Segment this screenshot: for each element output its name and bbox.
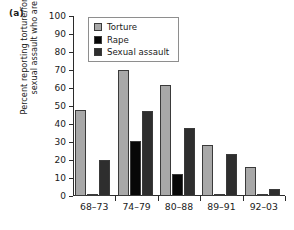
bar-rape-74–79 [130,141,141,196]
legend-swatch-torture [94,23,102,31]
y-axis-title-container: Percent reporting torture/forcible rape/… [12,0,46,125]
y-tick-0 [69,196,74,197]
x-axis-label-74–79: 74–79 [122,201,150,212]
x-tick-separator-4 [243,196,244,201]
legend-swatch-sexual-assault [94,48,102,56]
legend-item-sexual-assault: Sexual assault [94,47,169,57]
y-tick-label-60: 60 [55,83,66,93]
y-tick-label-30: 30 [55,137,66,147]
bar-torture-92–03 [245,167,256,196]
y-tick-label-100: 100 [49,11,66,21]
x-tick-separator-1 [115,196,116,201]
y-tick-label-90: 90 [55,29,66,39]
y-tick-label-40: 40 [55,119,66,129]
x-tick-separator-3 [200,196,201,201]
y-tick-label-50: 50 [55,101,66,111]
legend-swatch-rape [94,36,102,44]
legend-label-sexual-assault: Sexual assault [107,47,169,57]
x-axis-label-68–73: 68–73 [80,201,108,212]
y-tick-label-20: 20 [55,155,66,165]
x-axis-label-89–91: 89–91 [207,201,235,212]
bar-rape-80–88 [172,174,183,196]
bar-rape-89–91 [214,194,225,196]
legend-item-torture: Torture [94,22,169,32]
legend-label-rape: Rape [107,35,129,45]
y-axis-title: Percent reporting torture/forcible rape/… [19,0,39,115]
y-tick-label-10: 10 [55,173,66,183]
bar-torture-68–73 [75,110,86,196]
bar-sexual-assault-92–03 [269,189,280,196]
x-tick-separator-2 [158,196,159,201]
figure-panel-a: (a) Percent reporting torture/forcible r… [0,0,294,230]
bar-rape-68–73 [87,194,98,196]
chart-legend: TortureRapeSexual assault [88,17,179,62]
bar-rape-92–03 [257,194,268,196]
y-tick-label-70: 70 [55,65,66,75]
x-axis-label-80–88: 80–88 [165,201,193,212]
bar-sexual-assault-89–91 [226,154,237,196]
legend-label-torture: Torture [107,22,137,32]
bar-torture-89–91 [202,145,213,196]
legend-item-rape: Rape [94,35,169,45]
bar-torture-80–88 [160,85,171,196]
y-tick-label-0: 0 [60,191,66,201]
bar-sexual-assault-74–79 [142,111,153,196]
bar-torture-74–79 [118,70,129,196]
bar-sexual-assault-68–73 [99,160,110,196]
y-tick-label-80: 80 [55,47,66,57]
x-axis-label-92–03: 92–03 [250,201,278,212]
x-tick-separator-end [285,196,286,201]
bar-sexual-assault-80–88 [184,128,195,196]
